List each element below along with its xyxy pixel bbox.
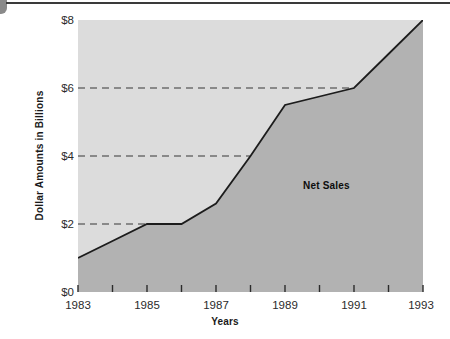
x-axis-title: Years bbox=[0, 316, 450, 327]
plot-area bbox=[0, 0, 450, 339]
net-sales-series-label: Net Sales bbox=[303, 179, 350, 190]
chart-figure: Dollar Amounts in Billions $8 $6 $4 $2 $… bbox=[0, 0, 450, 339]
